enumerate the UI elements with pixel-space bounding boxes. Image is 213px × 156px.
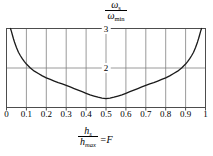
x-axis-tick-label: 0.9 xyxy=(180,109,191,119)
x-axis-tick-labels: 00.10.20.30.40.50.60.70.80.91 xyxy=(0,109,213,123)
y-axis-numerator-subscript: s xyxy=(118,4,121,11)
x-axis-label-suffix: =F xyxy=(98,134,113,145)
x-axis-tick-label: 0.8 xyxy=(160,109,171,119)
chart-figure: ωs ωmin 00.10.20.30.40.50.60.70.80.91 hs… xyxy=(0,0,213,156)
x-axis-tick-label: 0 xyxy=(4,109,9,119)
y-axis-denominator: ωmin xyxy=(105,11,126,21)
y-axis-tick-label: 3 xyxy=(102,24,111,34)
x-axis-tick-label: 0.4 xyxy=(80,109,91,119)
y-axis-tick-label: 2 xyxy=(102,63,111,73)
x-axis-label: hs hmax =F xyxy=(78,126,148,147)
x-axis-denominator-subscript: max xyxy=(85,141,96,148)
x-axis-tick-label: 0.5 xyxy=(100,109,111,119)
y-axis-fraction: ωs ωmin xyxy=(105,0,126,21)
x-axis-numerator: hs xyxy=(78,126,98,136)
x-axis-fraction: hs hmax xyxy=(78,126,98,147)
x-axis-tick-label: 0.2 xyxy=(41,109,52,119)
x-axis-tick-label: 0.3 xyxy=(61,109,72,119)
x-axis-numerator-subscript: s xyxy=(89,130,92,137)
y-axis-label: ωs ωmin xyxy=(96,0,136,22)
x-axis-tick-label: 1 xyxy=(203,109,208,119)
y-axis-denominator-subscript: min xyxy=(114,15,124,22)
x-axis-denominator: hmax xyxy=(78,137,98,147)
y-axis-numerator: ωs xyxy=(105,0,126,10)
x-axis-tick-label: 0.1 xyxy=(21,109,32,119)
x-axis-tick-label: 0.7 xyxy=(140,109,151,119)
x-axis-tick-label: 0.6 xyxy=(120,109,131,119)
